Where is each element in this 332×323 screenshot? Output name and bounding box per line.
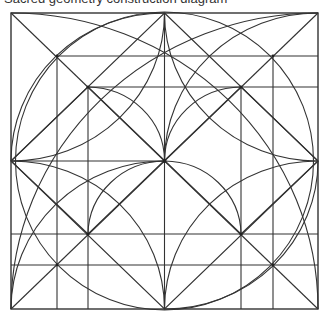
node-dot (272, 55, 275, 58)
node-dot (272, 264, 275, 267)
node-dot (56, 55, 59, 58)
node-dot (239, 85, 242, 88)
geometric-pattern-figure (0, 0, 332, 323)
node-dot (239, 232, 242, 235)
node-dot (56, 264, 59, 267)
node-dot (86, 232, 89, 235)
node-dot (163, 159, 167, 163)
node-dot (86, 85, 89, 88)
